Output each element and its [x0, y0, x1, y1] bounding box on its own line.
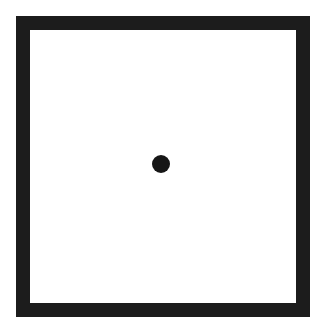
center-dot — [152, 155, 170, 173]
